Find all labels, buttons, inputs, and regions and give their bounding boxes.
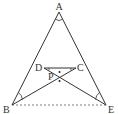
label-A: A [56,1,64,12]
label-E: E [108,104,114,114]
geometry-figure: A B E D C P [0,0,118,114]
label-D: D [35,62,42,73]
label-B: B [3,104,10,114]
label-P: P [48,71,54,82]
dot-mark-upper [59,71,61,73]
label-C: C [77,62,84,73]
angle-mark-A [55,19,62,20]
angle-mark-E [96,93,100,100]
angle-mark-B [19,93,23,100]
diagram-canvas: A B E D C P [0,0,118,114]
dot-mark-lower [59,80,61,82]
